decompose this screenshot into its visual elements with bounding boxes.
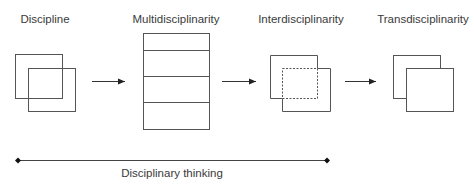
axis-start-diamond (15, 158, 21, 164)
diagram-canvas (0, 0, 474, 187)
discipline-squares (16, 55, 76, 112)
multidisciplinarity-stack (144, 34, 210, 130)
interdisciplinarity-squares (271, 56, 331, 112)
disciplinary-thinking-axis (15, 158, 330, 164)
transdisciplinarity-squares (394, 56, 454, 112)
axis-end-diamond (324, 158, 330, 164)
